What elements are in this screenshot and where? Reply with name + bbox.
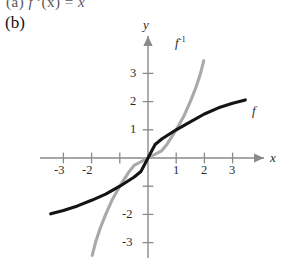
x-tick-label-1: 1 <box>173 163 179 178</box>
y-tick-label-neg3: -3 <box>122 235 132 250</box>
plot-svg <box>0 0 295 261</box>
x-tick-label-neg2: -2 <box>82 163 92 178</box>
x-axis-arrowhead <box>254 153 264 162</box>
y-tick-label-3: 3 <box>130 66 136 81</box>
y-tick-label-neg2: -2 <box>122 207 132 222</box>
curve-label-f-inverse-exponent: -1 <box>179 34 186 44</box>
y-axis-arrowhead <box>143 36 152 46</box>
curve-label-f-inverse: f-1 <box>175 34 186 51</box>
x-tick-label-3: 3 <box>229 163 235 178</box>
x-tick-label-2: 2 <box>201 163 207 178</box>
y-axis-label: y <box>143 17 149 33</box>
curve-label-f-text: f <box>252 103 256 118</box>
y-tick-label-1: 1 <box>130 122 136 137</box>
x-tick-label-neg3: -3 <box>54 163 64 178</box>
x-axis-label: x <box>270 150 276 166</box>
figure-graph-of-f-and-inverse: y x -3 -2 1 2 3 3 2 1 -2 -3 f f-1 <box>0 0 295 261</box>
y-tick-label-2: 2 <box>130 94 136 109</box>
curve-label-f: f <box>252 103 256 119</box>
